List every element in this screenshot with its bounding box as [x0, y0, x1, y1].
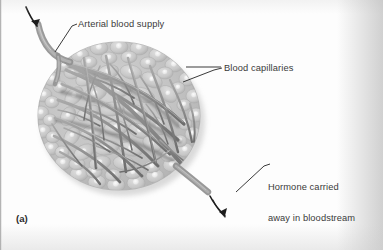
label-arterial-blood-supply: Arterial blood supply	[78, 19, 164, 29]
label-hormone-line-1: Hormone carried	[268, 182, 355, 192]
venous-outflow-vessel	[176, 166, 208, 192]
label-hormone-line-2: away in bloodstream	[268, 213, 355, 223]
label-hormone-carried-away: Hormone carried away in bloodstream	[268, 161, 355, 244]
figure-part-letter: (a)	[16, 213, 28, 224]
scan-left-edge	[0, 0, 2, 250]
leader-line-arterial	[55, 24, 77, 52]
label-blood-capillaries: Blood capillaries	[224, 63, 293, 73]
endocrine-gland-figure: Arterial blood supply Blood capillaries …	[0, 0, 383, 250]
leader-line-capillaries-lower	[183, 68, 222, 82]
leader-line-hormone	[236, 164, 270, 192]
scan-top-shading	[0, 0, 383, 14]
outflow-arrow-icon	[210, 196, 227, 217]
